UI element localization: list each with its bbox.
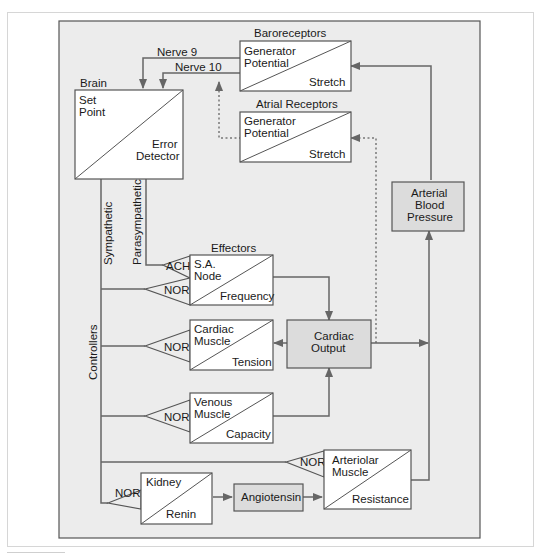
svg-text:Detector: Detector xyxy=(136,150,180,162)
svg-text:Capacity: Capacity xyxy=(226,428,271,440)
svg-text:Generator: Generator xyxy=(244,45,296,57)
brain-block: Set Point Error Detector xyxy=(75,90,183,179)
svg-text:Generator: Generator xyxy=(244,115,296,127)
svg-text:Node: Node xyxy=(194,270,222,282)
svg-text:Potential: Potential xyxy=(244,57,289,69)
controllers-label: Controllers xyxy=(87,324,99,380)
svg-text:Pressure: Pressure xyxy=(407,211,453,223)
svg-text:Muscle: Muscle xyxy=(194,335,230,347)
svg-text:Blood: Blood xyxy=(415,199,444,211)
svg-text:Potential: Potential xyxy=(244,127,289,139)
svg-text:Kidney: Kidney xyxy=(146,476,181,488)
svg-text:ACH: ACH xyxy=(166,260,190,272)
svg-text:Cardiac: Cardiac xyxy=(314,330,354,342)
svg-text:Resistance: Resistance xyxy=(352,493,409,505)
svg-text:Point: Point xyxy=(79,106,106,118)
sympathetic-label: Sympathetic xyxy=(102,201,114,265)
nerve-10-label: Nerve 10 xyxy=(175,61,222,73)
svg-text:Arterial: Arterial xyxy=(411,187,447,199)
brain-label: Brain xyxy=(80,77,107,89)
svg-text:Output: Output xyxy=(311,342,346,354)
svg-text:Arteriolar: Arteriolar xyxy=(332,454,379,466)
atrial-receptors-label: Atrial Receptors xyxy=(256,98,338,110)
svg-text:Muscle: Muscle xyxy=(332,466,368,478)
atrial-receptor-block: Generator Potential Stretch xyxy=(240,112,351,162)
svg-text:Frequency: Frequency xyxy=(220,290,275,302)
svg-text:Venous: Venous xyxy=(194,396,233,408)
cardiac-output-box: Cardiac Output xyxy=(287,320,371,368)
svg-text:Stretch: Stretch xyxy=(309,76,345,88)
svg-text:NOR: NOR xyxy=(115,487,141,499)
baroreceptors-label: Baroreceptors xyxy=(254,27,326,39)
effectors-label: Effectors xyxy=(211,242,256,254)
baroreceptor-block: Generator Potential Stretch xyxy=(240,41,351,91)
nerve-9-label: Nerve 9 xyxy=(157,46,197,58)
svg-text:Error: Error xyxy=(152,138,178,150)
arterial-blood-pressure-box: Arterial Blood Pressure xyxy=(392,182,464,231)
control-diagram: Baroreceptors Nerve 9 Nerve 10 Brain Atr… xyxy=(0,0,552,560)
svg-text:Angiotensin: Angiotensin xyxy=(241,491,301,503)
svg-text:Set: Set xyxy=(79,94,97,106)
svg-text:Stretch: Stretch xyxy=(309,148,345,160)
svg-text:Muscle: Muscle xyxy=(194,408,230,420)
svg-text:Renin: Renin xyxy=(166,508,196,520)
svg-text:NOR: NOR xyxy=(164,284,190,296)
svg-text:Cardiac: Cardiac xyxy=(194,323,234,335)
svg-text:NOR: NOR xyxy=(164,341,190,353)
parasympathetic-label: Parasympathetic xyxy=(131,179,143,265)
svg-text:NOR: NOR xyxy=(300,456,326,468)
angiotensin-box: Angiotensin xyxy=(234,484,303,511)
svg-text:Tension: Tension xyxy=(232,356,272,368)
svg-text:S.A.: S.A. xyxy=(194,258,216,270)
svg-text:NOR: NOR xyxy=(164,411,190,423)
